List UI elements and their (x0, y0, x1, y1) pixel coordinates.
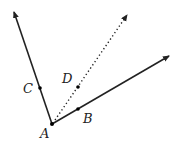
label-d: D (61, 71, 73, 86)
label-b: B (82, 111, 93, 126)
geometry-diagram: A B C D (0, 0, 177, 143)
ray-ad (55, 15, 127, 120)
label-a: A (39, 126, 49, 141)
ray-ac (14, 12, 52, 124)
point-b (76, 107, 80, 111)
point-c (38, 86, 42, 90)
point-a (50, 122, 54, 126)
point-d (76, 85, 80, 89)
ray-ab (52, 56, 169, 124)
label-c: C (23, 81, 33, 96)
